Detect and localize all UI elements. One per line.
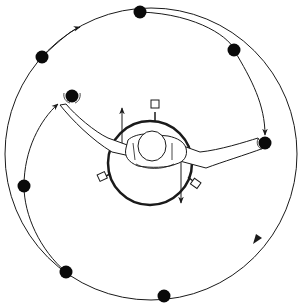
orbit-dot-upper-right — [228, 44, 241, 57]
diagram-canvas: Overhead view of figure on rotating plat… — [0, 0, 301, 305]
inner-path-right-arrow — [140, 12, 265, 135]
inner-path-left-arrow — [24, 104, 66, 272]
orbit-dot-top — [134, 6, 147, 19]
orbit-dot-bottom — [158, 290, 171, 303]
left-hand-weight — [64, 90, 80, 104]
platform-knob-right — [188, 177, 201, 189]
upper-left-arc-arrow — [42, 27, 80, 57]
orbit-dot-lower-left — [60, 266, 73, 279]
left-arm — [60, 104, 130, 156]
orbit-dot-upper-left — [36, 51, 49, 64]
head — [138, 131, 166, 161]
platform-knob-top — [151, 100, 159, 121]
orbit-dot-left — [18, 180, 31, 193]
right-hand-weight — [257, 137, 271, 150]
lower-right-arc-arrow — [245, 160, 296, 270]
